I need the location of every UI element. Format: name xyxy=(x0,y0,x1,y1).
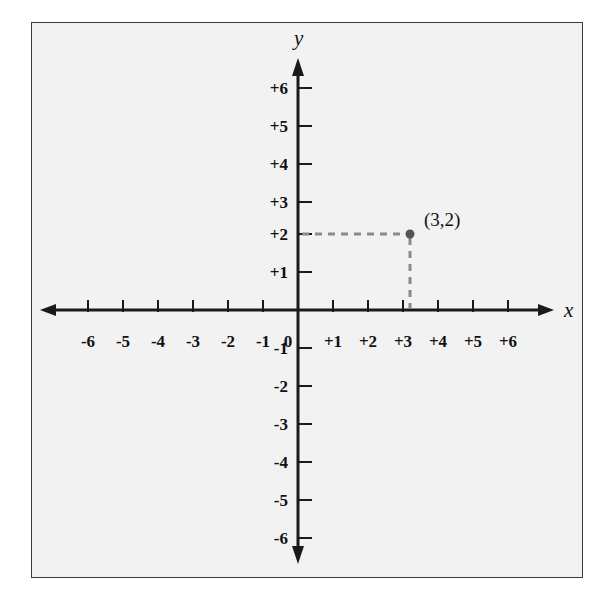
x-tick-label: -2 xyxy=(221,333,235,350)
x-tick-label: +2 xyxy=(359,333,377,350)
y-axis-label: y xyxy=(294,28,303,49)
y-tick-label: -1 xyxy=(252,340,288,357)
y-tick-label: +4 xyxy=(250,156,288,173)
x-tick-label: -4 xyxy=(151,333,165,350)
y-tick-label: +6 xyxy=(250,80,288,97)
y-tick-label: -6 xyxy=(252,530,288,547)
x-tick-label: +1 xyxy=(324,333,342,350)
y-tick-label: -5 xyxy=(252,492,288,509)
data-point xyxy=(406,230,415,239)
y-tick-label: +2 xyxy=(250,226,288,243)
y-tick-label: +5 xyxy=(250,118,288,135)
axes-svg xyxy=(0,0,611,600)
y-tick-label: +1 xyxy=(250,264,288,281)
x-tick-label: +4 xyxy=(429,333,447,350)
y-tick-label: +3 xyxy=(250,194,288,211)
y-tick-label: -4 xyxy=(252,454,288,471)
y-tick-label: -2 xyxy=(252,378,288,395)
x-tick-label: +3 xyxy=(394,333,412,350)
x-tick-label: -3 xyxy=(186,333,200,350)
y-axis-ticks xyxy=(298,88,312,538)
data-point-label: (3,2) xyxy=(424,210,460,229)
x-tick-label: +5 xyxy=(464,333,482,350)
x-axis-label: x xyxy=(564,300,573,321)
x-tick-label: +6 xyxy=(499,333,517,350)
x-tick-label: -5 xyxy=(116,333,130,350)
coordinate-plane-figure: -6 -5 -4 -3 -2 -1 0 +1 +2 +3 +4 +5 +6 +6… xyxy=(0,0,611,600)
y-tick-label: -3 xyxy=(252,416,288,433)
x-tick-label: -6 xyxy=(81,333,95,350)
